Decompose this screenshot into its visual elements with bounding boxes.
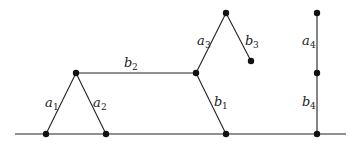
node-ground-3 (223, 131, 229, 137)
node-b3-end (248, 58, 254, 64)
label-b3: b 3 (245, 33, 259, 50)
node-junction (193, 70, 199, 76)
node-ground-1 (43, 131, 49, 137)
node-ground-2 (103, 131, 109, 137)
label-a1: a 1 (45, 95, 59, 112)
svg-text:a: a (197, 33, 205, 48)
svg-text:a: a (45, 95, 53, 110)
svg-text:3: 3 (205, 40, 211, 50)
node-vertical-top (314, 10, 320, 16)
node-top-apex (223, 10, 229, 16)
label-b4: b 4 (302, 94, 316, 111)
svg-text:4: 4 (310, 40, 316, 50)
svg-text:1: 1 (53, 102, 59, 112)
label-b2: b 2 (124, 55, 138, 72)
node-vertical-mid (314, 70, 320, 76)
svg-text:3: 3 (253, 40, 259, 50)
svg-text:2: 2 (101, 102, 107, 112)
svg-text:4: 4 (310, 101, 316, 111)
node-ground-4 (314, 131, 320, 137)
svg-text:2: 2 (132, 62, 138, 72)
node-left-apex (73, 70, 79, 76)
label-a3: a 3 (197, 33, 211, 50)
label-a2: a 2 (93, 95, 107, 112)
svg-text:a: a (302, 33, 310, 48)
label-b1: b 1 (214, 94, 228, 111)
svg-text:1: 1 (222, 101, 228, 111)
label-a4: a 4 (302, 33, 316, 50)
graph-diagram: a 1 a 2 b 2 b 1 a 3 b 3 a 4 b 4 (0, 0, 362, 147)
svg-text:a: a (93, 95, 101, 110)
